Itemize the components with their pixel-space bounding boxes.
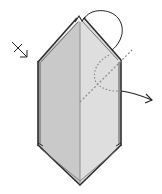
- pull-out-arrow-icon: [121, 91, 152, 103]
- turn-over-arrow-icon: [12, 42, 27, 57]
- paper-left-panel: [38, 20, 80, 184]
- origami-diagram: origami-step: [0, 0, 162, 194]
- paper-right-panel: [80, 20, 121, 184]
- diagram-canvas: [0, 0, 162, 194]
